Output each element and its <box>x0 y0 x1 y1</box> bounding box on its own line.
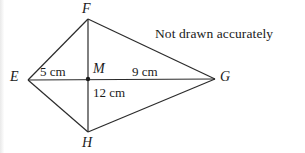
vertex-label-H: H <box>82 136 92 150</box>
measurement-MG: 9 cm <box>132 65 158 78</box>
edge-HE <box>28 80 88 132</box>
measurement-EM: 5 cm <box>40 65 66 78</box>
geometry-diagram-canvas: F E G H M 5 cm 9 cm 12 cm Not drawn accu… <box>0 0 305 153</box>
vertex-label-F: F <box>82 2 91 16</box>
vertex-label-M: M <box>93 62 105 76</box>
not-drawn-accurately-note: Not drawn accurately <box>155 27 273 41</box>
vertex-label-G: G <box>220 70 230 84</box>
measurement-MH: 12 cm <box>93 86 125 99</box>
diagonal-EG <box>28 79 215 80</box>
vertex-label-E: E <box>10 70 19 84</box>
midpoint-marker-M <box>86 77 90 81</box>
